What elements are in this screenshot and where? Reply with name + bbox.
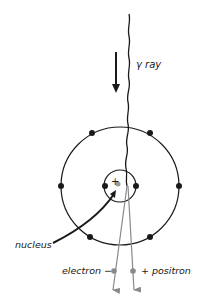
nucleus-label: nucleus xyxy=(15,239,52,250)
electron-dot xyxy=(102,183,108,189)
pair-production-diagram: γ ray + nucleus electron − + positron xyxy=(0,0,203,301)
inner-orbit xyxy=(104,170,136,202)
positron-label: + positron xyxy=(141,265,191,276)
positron-track xyxy=(128,186,134,290)
inner-electrons xyxy=(102,183,139,189)
positron-particle xyxy=(130,268,136,274)
gamma-ray-wave xyxy=(126,14,130,186)
electron-dot xyxy=(147,234,153,240)
electron-dot xyxy=(147,130,153,136)
nucleus-pointer xyxy=(53,194,114,243)
nucleus-charge: + xyxy=(111,176,119,187)
electron-dot xyxy=(58,183,64,189)
electron-dot xyxy=(176,183,182,189)
gamma-ray-label: γ ray xyxy=(136,59,162,70)
electron-particle xyxy=(111,268,117,274)
electron-dot xyxy=(87,234,93,240)
electron-dot xyxy=(133,183,139,189)
electron-dot xyxy=(89,130,95,136)
direction-arrow-icon xyxy=(112,52,120,93)
electron-label: electron − xyxy=(62,265,112,276)
